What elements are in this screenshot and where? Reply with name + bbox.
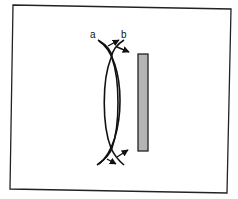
bottom-arrow-left-icon bbox=[107, 159, 116, 164]
diagram-canvas: a b bbox=[0, 0, 238, 199]
bottom-arrow-right-icon bbox=[117, 150, 128, 157]
arc-b bbox=[104, 40, 124, 165]
gray-plate bbox=[138, 54, 148, 151]
label-b: b bbox=[121, 29, 127, 40]
label-a: a bbox=[90, 29, 96, 40]
top-arrow-right-icon bbox=[117, 47, 129, 52]
arc-a bbox=[97, 40, 118, 165]
